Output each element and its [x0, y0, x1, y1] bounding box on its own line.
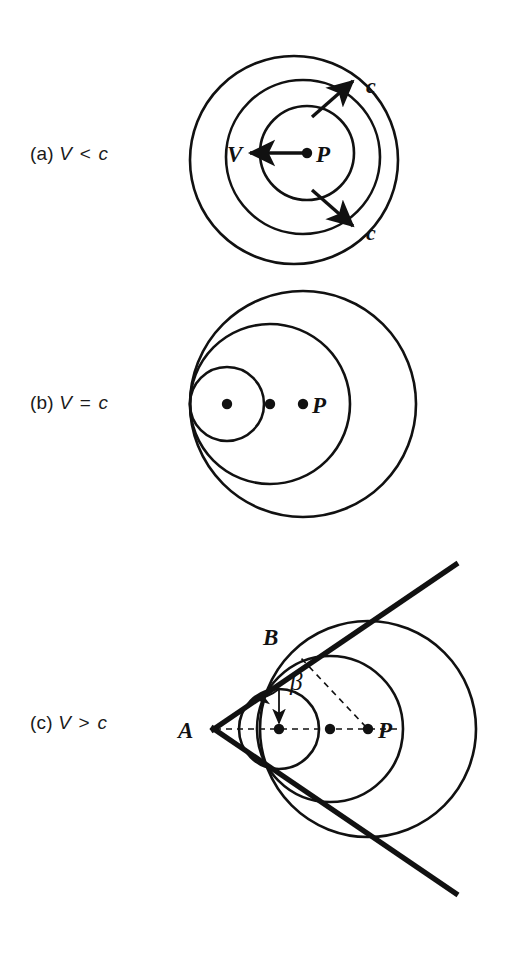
panel-a-source-dot — [302, 148, 312, 158]
panel-c-mach-angle-label: β — [289, 668, 303, 695]
panel-a-wavefront-middle — [226, 80, 380, 234]
panel-a-sound-arrow-lower — [312, 190, 353, 226]
panel-a-source-label: P — [315, 142, 331, 167]
panel-c-source-dot-middle — [325, 724, 335, 734]
panel-c-radius-dashed-line — [300, 657, 366, 727]
panel-c-mach-line-upper — [211, 563, 458, 731]
panel-c-source-dot-current — [363, 724, 373, 734]
panel-b-source-dot-current — [298, 399, 308, 409]
panel-a-diagram: V P c c — [190, 56, 398, 264]
panel-c-apex-label: A — [176, 718, 193, 743]
figure-root: (a) V < c (b) V = c (c) V > c — [0, 0, 531, 973]
panel-c-tangent-label: B — [262, 625, 278, 650]
panel-c-diagram: A B β P — [176, 563, 476, 895]
diagram-canvas: V P c c P — [0, 0, 531, 973]
panel-c-mach-line-lower — [211, 727, 458, 895]
panel-c-source-label: P — [377, 718, 393, 743]
panel-b-diagram: P — [190, 291, 416, 517]
panel-a-sound-label-lower: c — [366, 220, 376, 245]
panel-a-sound-label-upper: c — [366, 73, 376, 98]
panel-b-source-dot-oldest — [222, 399, 232, 409]
panel-c-source-dot-oldest — [274, 724, 284, 734]
panel-b-source-dot-middle — [265, 399, 275, 409]
panel-a-velocity-label: V — [227, 142, 244, 167]
panel-b-source-label: P — [311, 393, 327, 418]
